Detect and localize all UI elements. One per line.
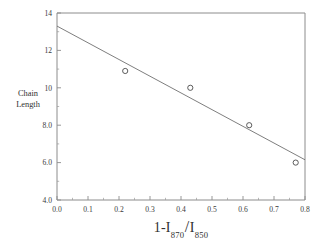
scatter-plot-canvas: 0.00.10.20.30.40.50.60.70.8 4.06.08.0101… <box>0 0 321 249</box>
axis-frame <box>57 13 305 200</box>
x-tick-label-5: 0.5 <box>207 205 217 214</box>
x-tick-label-4: 0.4 <box>176 205 186 214</box>
x-tick-label-0: 0.0 <box>52 205 62 214</box>
data-point-0-2 <box>247 123 252 128</box>
y-axis-title: Chain Length <box>2 88 54 110</box>
x-axis-tick-labels: 0.00.10.20.30.40.50.60.70.8 <box>52 205 310 214</box>
fit-line-segment <box>57 26 305 160</box>
chart-figure: 0.00.10.20.30.40.50.60.70.8 4.06.08.0101… <box>0 0 321 249</box>
x-tick-label-7: 0.7 <box>269 205 279 214</box>
x-axis-title-mid: I <box>190 220 195 235</box>
y-tick-label-5: 14 <box>44 9 52 18</box>
x-tick-label-2: 0.2 <box>114 205 124 214</box>
y-tick-label-1: 6.0 <box>43 158 53 167</box>
y-axis-title-line-2: Length <box>2 99 54 110</box>
data-point-0-0 <box>123 68 128 73</box>
x-tick-label-6: 0.6 <box>238 205 248 214</box>
data-point-0-1 <box>188 85 193 90</box>
y-tick-label-2: 8.0 <box>43 121 53 130</box>
x-tick-label-8: 0.8 <box>300 205 310 214</box>
x-axis-title-subscript-870: 870 <box>171 230 185 240</box>
x-axis-title-prefix: 1-I <box>154 220 171 235</box>
x-axis-title: 1-I870/I850 <box>57 218 305 238</box>
x-tick-label-3: 0.3 <box>145 205 155 214</box>
x-axis-title-subscript-850: 850 <box>195 230 209 240</box>
x-tick-label-1: 0.1 <box>83 205 93 214</box>
linear-fit-line <box>57 26 305 160</box>
y-tick-label-0: 4.0 <box>43 196 53 205</box>
data-point-0-3 <box>293 160 298 165</box>
y-axis-title-line-1: Chain <box>2 88 54 99</box>
data-point-markers <box>123 68 299 165</box>
x-axis-major-ticks <box>57 196 305 200</box>
y-tick-label-4: 12 <box>44 46 52 55</box>
plot-frame <box>57 13 305 200</box>
